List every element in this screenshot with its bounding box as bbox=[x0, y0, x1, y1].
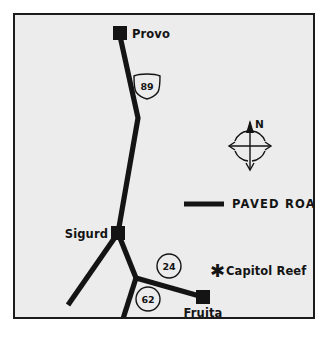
city-marker-provo: Provo bbox=[113, 26, 170, 41]
route-number-62: 62 bbox=[141, 294, 154, 305]
route-shield-ut-62: 62 bbox=[136, 287, 160, 311]
city-square-icon bbox=[111, 226, 125, 240]
star-icon: ✱ bbox=[210, 260, 225, 281]
map-figure: Provo Sigurd Fruita ✱ Capitol Reef 89 bbox=[0, 0, 330, 341]
park-marker-capitol-reef: ✱ Capitol Reef bbox=[210, 260, 307, 281]
city-marker-sigurd: Sigurd bbox=[65, 226, 125, 241]
route-number-24: 24 bbox=[162, 261, 176, 272]
park-label-capitol-reef: Capitol Reef bbox=[226, 264, 307, 278]
compass-ring-arc-ne bbox=[252, 131, 265, 141]
route-shield-ut-24: 24 bbox=[157, 254, 181, 278]
route-shield-us-89: 89 bbox=[134, 74, 160, 99]
city-label-provo: Provo bbox=[132, 27, 170, 41]
city-label-fruita: Fruita bbox=[184, 306, 223, 320]
compass-rose: N bbox=[229, 118, 271, 170]
road-us-89-provo-to-sigurd bbox=[118, 36, 138, 233]
road-ut-62-south bbox=[122, 278, 136, 322]
compass-ring-arc-sw bbox=[235, 151, 248, 161]
legend-paved-road-label: PAVED ROAD bbox=[232, 197, 327, 211]
route-number-89: 89 bbox=[140, 81, 153, 92]
compass-ring-arc-nw bbox=[235, 131, 248, 141]
city-label-sigurd: Sigurd bbox=[65, 227, 108, 241]
compass-ring-arc-se bbox=[252, 151, 265, 161]
city-square-icon bbox=[113, 26, 127, 40]
compass-north-label: N bbox=[255, 118, 264, 130]
city-square-icon bbox=[196, 290, 210, 304]
map-canvas: Provo Sigurd Fruita ✱ Capitol Reef 89 bbox=[0, 0, 330, 341]
road-sigurd-southwest bbox=[68, 233, 118, 305]
map-legend: PAVED ROAD bbox=[184, 197, 327, 211]
